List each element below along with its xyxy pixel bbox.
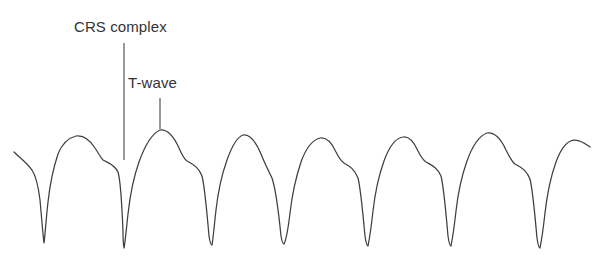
t-wave-label: T-wave [128, 74, 177, 91]
ecg-waveform-svg [0, 0, 603, 265]
ecg-figure: CRS complex T-wave [0, 0, 603, 265]
qrs-complex-label: CRS complex [74, 18, 167, 35]
figure-background [0, 0, 603, 265]
